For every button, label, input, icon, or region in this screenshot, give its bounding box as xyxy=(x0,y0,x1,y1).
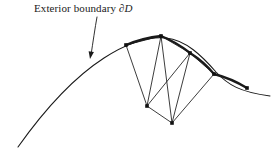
mesh-edges-group xyxy=(126,36,214,123)
boundary-symbol: ∂D xyxy=(119,2,133,14)
mesh-node-marker xyxy=(245,86,249,90)
mesh-node-marker xyxy=(212,72,216,76)
emphasized-boundary-segment xyxy=(214,74,247,88)
mesh-node-marker xyxy=(145,104,149,108)
mesh-edge xyxy=(147,106,172,123)
exterior-boundary-label-text: Exterior boundary xyxy=(34,2,119,14)
leader-arrowhead xyxy=(89,51,94,59)
exterior-boundary-label: Exterior boundary ∂D xyxy=(34,2,132,15)
mesh-node-marker xyxy=(124,43,128,47)
mesh-edge xyxy=(147,36,161,106)
leader-arrow-line xyxy=(91,17,97,55)
mesh-edge xyxy=(190,53,214,74)
mesh-node-marker xyxy=(188,51,192,55)
exterior-boundary-curve xyxy=(18,38,270,147)
exterior-boundary-curve-group xyxy=(18,38,270,147)
figure-root: Exterior boundary ∂D xyxy=(0,0,280,153)
mesh-edge xyxy=(126,36,161,45)
mesh-edge xyxy=(126,45,147,106)
boundary-element-diagram xyxy=(0,0,280,153)
mesh-node-marker xyxy=(159,34,163,38)
emphasized-boundary-group xyxy=(126,36,247,88)
mesh-edge xyxy=(161,36,172,123)
leader-arrow-group xyxy=(89,17,97,59)
mesh-node-marker xyxy=(170,121,174,125)
